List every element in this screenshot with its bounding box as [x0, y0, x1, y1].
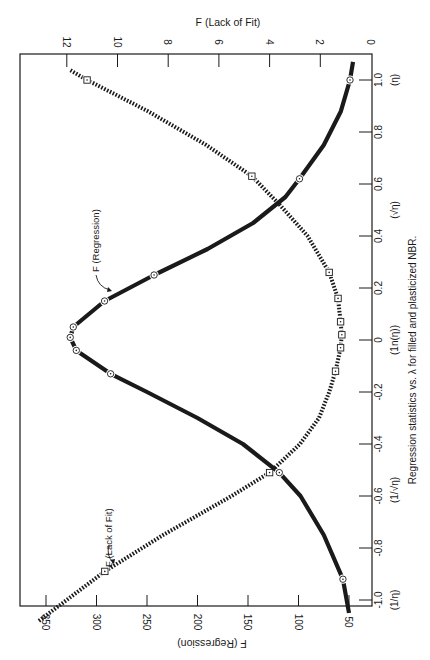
tick-label: 0.8	[373, 125, 384, 139]
tick-label: 1.0	[373, 73, 384, 87]
tick-label: -0.2	[373, 383, 384, 401]
tick-label: 4	[264, 39, 275, 45]
lack-of-fit-curve	[39, 70, 342, 621]
f-lack-of-fit-axis: 024681012	[61, 36, 376, 67]
tick-label: 200	[192, 614, 203, 631]
marker-dot	[337, 298, 339, 300]
lack-of-fit-series	[39, 70, 346, 621]
marker-dot	[76, 350, 78, 352]
marker-dot	[349, 79, 351, 81]
arrowhead-regression	[107, 287, 112, 292]
bottom-axis-title: F (Regression)	[177, 638, 246, 650]
marker-dot	[340, 347, 342, 349]
annotation-f-regression: F (Regression)	[90, 209, 101, 272]
tick-label: 0	[365, 39, 376, 45]
transform-label: (1n(η))	[389, 325, 400, 355]
marker-dot	[104, 300, 106, 302]
marker-dot	[279, 472, 281, 474]
transform-label: (1/η)	[389, 590, 400, 611]
tick-label: 0.2	[373, 281, 384, 295]
marker-dot	[153, 274, 155, 276]
tick-label: 150	[242, 614, 253, 631]
marker-dot	[299, 178, 301, 180]
tick-label: 6	[213, 39, 224, 45]
tick-label: 10	[112, 36, 123, 48]
tick-label: 0.4	[373, 229, 384, 243]
tick-label: 50	[343, 616, 354, 628]
marker-dot	[340, 321, 342, 323]
marker-dot	[110, 373, 112, 375]
tick-label: -1.0	[373, 591, 384, 609]
transform-label: (√η)	[389, 201, 400, 219]
tick-label: -0.6	[373, 487, 384, 505]
f-regression-axis: 50100150200250300350	[40, 595, 354, 631]
marker-dot	[104, 571, 106, 573]
lambda-axis: -1.0-0.8-0.6-0.4-0.200.20.40.60.81.0(1/η…	[359, 73, 400, 611]
tick-label: 12	[61, 36, 72, 48]
tick-label: 0	[373, 337, 384, 343]
marker-dot	[328, 272, 330, 274]
tick-label: 250	[141, 614, 152, 631]
top-axis-title: F (Lack of Fit)	[196, 16, 261, 28]
figure-caption: Regression statistics vs. λ for filled a…	[407, 236, 418, 484]
marker-dot	[335, 370, 337, 372]
marker-dot	[69, 337, 71, 339]
transform-label: (η)	[389, 74, 400, 86]
transform-label: (1/√η)	[389, 477, 400, 503]
marker-dot	[86, 79, 88, 81]
marker-dot	[251, 175, 253, 177]
tick-label: 8	[162, 39, 173, 45]
marker-dot	[72, 326, 74, 328]
annotation-f-lack-of-fit: F (Lack of Fit)	[103, 508, 114, 567]
tick-label: 0.6	[373, 177, 384, 191]
tick-label: 100	[293, 614, 304, 631]
tick-label: 300	[91, 614, 102, 631]
tick-label: -0.4	[373, 435, 384, 453]
regression-statistics-chart: 50100150200250300350 024681012 -1.0-0.8-…	[0, 0, 430, 660]
tick-label: 2	[314, 39, 325, 45]
tick-label: -0.8	[373, 539, 384, 557]
tick-label: 350	[40, 614, 51, 631]
marker-dot	[269, 472, 271, 474]
marker-dot	[342, 578, 344, 580]
marker-dot	[341, 334, 343, 336]
